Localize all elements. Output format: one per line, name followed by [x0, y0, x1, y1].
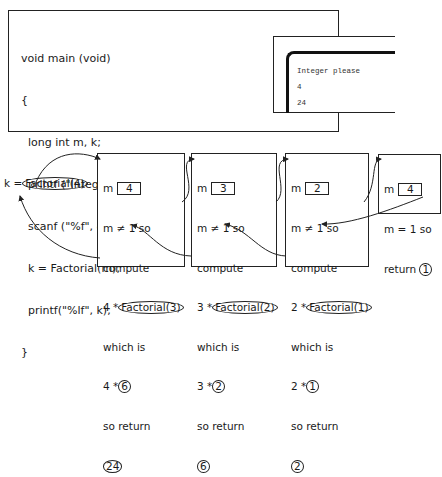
return-value-oval: 2: [291, 460, 304, 473]
return-arrow-4: [322, 197, 423, 224]
call-arrow-2: [182, 159, 194, 202]
call-arrow-1: [36, 154, 100, 182]
result-prefix: 2 *: [291, 380, 306, 392]
so-return-label: so return: [291, 420, 372, 433]
return-arrow-1: [20, 196, 100, 258]
so-return-label: so return: [197, 420, 278, 433]
recursive-call-oval: Factorial(1): [306, 301, 371, 314]
result-prefix: 4 *: [103, 380, 118, 392]
call-arrow-3: [276, 159, 288, 202]
return-arrow-2: [132, 225, 191, 256]
return-value-oval: 6: [197, 460, 210, 473]
result-oval: 6: [118, 380, 131, 393]
result-oval: 1: [306, 380, 319, 393]
which-label: which is: [291, 341, 372, 354]
expr-prefix: 4 *: [103, 301, 118, 313]
result-oval: 2: [212, 380, 225, 393]
recursive-call-oval: Factorial(3): [118, 301, 183, 314]
return-arrow-3: [225, 224, 286, 256]
call-arrow-4: [364, 159, 381, 202]
return-value-oval: 24: [103, 460, 122, 473]
expr-prefix: 3 *: [197, 301, 212, 313]
recursive-call-oval: Factorial(2): [212, 301, 277, 314]
which-label: which is: [197, 341, 278, 354]
result-prefix: 3 *: [197, 380, 212, 392]
expr-prefix: 2 *: [291, 301, 306, 313]
so-return-label: so return: [103, 420, 184, 433]
which-label: which is: [103, 341, 184, 354]
